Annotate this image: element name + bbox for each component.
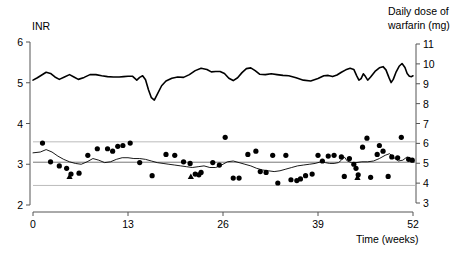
inr-warfarin-chart: 23456 34567891011 013263952 INR Daily do…: [0, 0, 455, 262]
inr-data-point: [236, 176, 241, 181]
inr-data-point: [399, 135, 404, 140]
inr-data-point: [320, 158, 325, 163]
chart-container: 23456 34567891011 013263952 INR Daily do…: [0, 0, 455, 262]
left-axis-tick-label: 6: [17, 36, 23, 48]
inr-data-point: [380, 149, 385, 154]
inr-data-point: [283, 153, 288, 158]
inr-data-point: [288, 177, 293, 182]
inr-data-point: [210, 160, 215, 165]
inr-data-point: [368, 175, 373, 180]
inr-data-point: [57, 163, 62, 168]
inr-data-point: [223, 135, 228, 140]
inr-data-point: [353, 166, 358, 171]
inr-data-point: [310, 171, 315, 176]
left-axis-tick-label: 2: [17, 199, 23, 211]
inr-data-point: [85, 153, 90, 158]
inr-data-point: [40, 140, 45, 145]
inr-data-point: [258, 169, 263, 174]
inr-data-point: [264, 170, 269, 175]
inr-data-point: [245, 152, 250, 157]
inr-data-point: [386, 174, 391, 179]
inr-data-point: [172, 153, 177, 158]
inr-data-point: [339, 154, 344, 159]
inr-data-point: [275, 180, 280, 185]
x-axis-tick-label: 52: [407, 218, 419, 230]
inr-data-point: [389, 154, 394, 159]
inr-data-point: [64, 166, 69, 171]
right-axis-tick-label: 6: [423, 137, 429, 149]
right-axis-tick-label: 11: [423, 38, 434, 50]
inr-data-point: [128, 140, 133, 145]
inr-data-point: [137, 160, 142, 165]
x-axis-tick-label: 13: [122, 218, 134, 230]
inr-data-point: [298, 176, 303, 181]
inr-data-point: [270, 153, 275, 158]
x-axis-tick-label: 39: [312, 218, 324, 230]
right-axis-tick-label: 9: [423, 78, 429, 90]
right-axis-title-line1: Daily dose of: [388, 5, 449, 17]
left-axis-tick-label: 5: [17, 77, 23, 89]
inr-data-point: [115, 144, 120, 149]
left-axis-title: INR: [32, 20, 51, 32]
right-axis-tick-label: 7: [423, 118, 429, 130]
inr-data-point: [48, 159, 53, 164]
inr-data-point: [360, 145, 365, 150]
inr-data-point: [105, 146, 110, 151]
inr-data-point: [303, 173, 308, 178]
right-axis-tick-label: 4: [423, 177, 429, 189]
x-axis-tick-label: 0: [30, 218, 36, 230]
inr-data-point: [181, 159, 186, 164]
inr-data-point: [410, 158, 415, 163]
inr-data-point: [253, 149, 258, 154]
right-axis-tick-label: 10: [423, 58, 435, 70]
inr-data-point: [163, 152, 168, 157]
inr-data-point: [120, 143, 125, 148]
inr-data-point: [347, 156, 352, 161]
inr-data-point: [188, 161, 193, 166]
right-axis-tick-label: 8: [423, 98, 429, 110]
x-axis-tick-label: 26: [217, 218, 229, 230]
left-axis-tick-label: 4: [17, 118, 23, 130]
inr-data-point: [217, 162, 222, 167]
inr-data-point: [364, 136, 369, 141]
inr-data-point: [331, 153, 336, 158]
inr-data-point: [342, 174, 347, 179]
inr-data-point: [110, 149, 115, 154]
inr-data-point: [315, 153, 320, 158]
x-axis-title: Time (weeks): [356, 233, 419, 245]
inr-data-point: [76, 171, 81, 176]
left-axis-tick-label: 3: [17, 158, 23, 170]
inr-data-point: [395, 155, 400, 160]
inr-data-point: [150, 173, 155, 178]
inr-data-point: [95, 146, 100, 151]
inr-data-point: [377, 143, 382, 148]
inr-data-point: [326, 154, 331, 159]
inr-data-point: [231, 176, 236, 181]
right-axis-tick-label: 5: [423, 157, 429, 169]
right-axis-title-line2: warfarin (mg): [387, 19, 450, 31]
inr-data-point: [375, 152, 380, 157]
inr-data-point: [198, 170, 203, 175]
right-axis-tick-label: 3: [423, 197, 429, 209]
